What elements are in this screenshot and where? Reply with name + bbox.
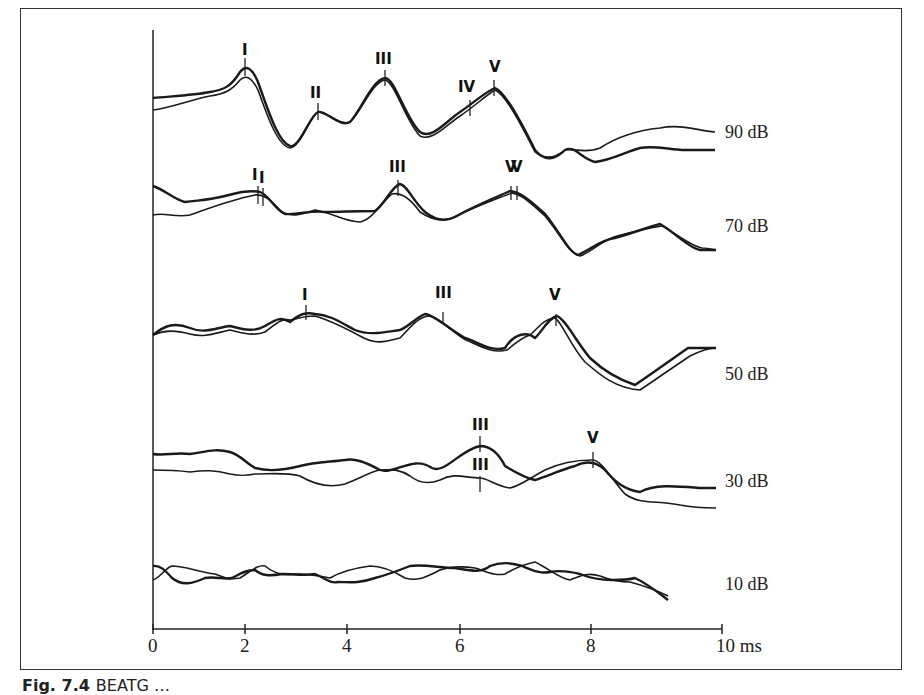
- peak-label-90db: I: [242, 41, 248, 59]
- figure-number: Fig. 7.4: [22, 676, 90, 695]
- peak-label-70db: III: [389, 158, 406, 176]
- peak-label-50db: V: [549, 286, 561, 304]
- x-tick-label: 8: [586, 635, 596, 656]
- trace-50db: I III V: [153, 284, 716, 390]
- peak-label-90db: IV: [458, 78, 476, 96]
- peak-label-90db: V: [489, 58, 501, 76]
- peak-label-70db: I: [259, 169, 265, 187]
- peak-label-50db: III: [435, 284, 452, 302]
- trace-90db: I II III IV V: [153, 41, 715, 162]
- intensity-label-50db: 50 dB: [725, 364, 769, 384]
- x-tick-label: 0: [148, 635, 158, 656]
- x-tick-label: 10 ms: [716, 635, 762, 656]
- x-tick-label: 4: [342, 635, 352, 656]
- trace-10db: [153, 562, 668, 600]
- peak-label-90db: III: [375, 50, 392, 68]
- peak-label-70db: I: [252, 166, 258, 184]
- intensity-label-70db: 70 dB: [725, 216, 769, 236]
- intensity-label-90db: 90 dB: [725, 122, 769, 142]
- intensity-label-30db: 30 dB: [725, 471, 769, 491]
- peak-label-30db: III: [472, 456, 489, 474]
- intensity-label-10db: 10 dB: [725, 574, 769, 594]
- figure-caption: Fig. 7.4BEATG …: [22, 676, 170, 695]
- x-tick-label: 2: [240, 635, 250, 656]
- x-tick-label: 6: [455, 635, 465, 656]
- peak-label-30db: V: [587, 429, 599, 447]
- peak-label-50db: I: [302, 286, 308, 304]
- peak-label-70db: V: [511, 158, 523, 176]
- peak-label-30db: III: [472, 416, 489, 434]
- trace-70db: I I III V V: [153, 158, 716, 256]
- caption-text: BEATG …: [96, 676, 170, 695]
- trace-30db: III III V: [153, 416, 716, 508]
- peak-label-90db: II: [310, 84, 321, 102]
